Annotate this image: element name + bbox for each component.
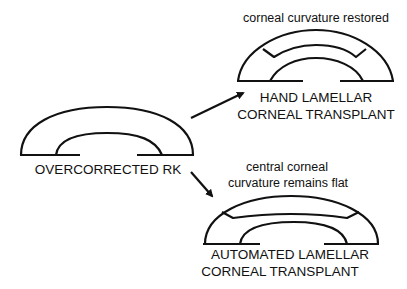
overcorrected-rk-label: OVERCORRECTED RK — [35, 163, 181, 177]
automated-lamellar-caption-line-2: curvature remains flat — [228, 177, 348, 190]
hand-lamellar-cornea-shape — [237, 30, 394, 81]
hand-lamellar-label-line-1: HAND LAMELLAR — [260, 91, 373, 105]
automated-lamellar-label-line-2: CORNEAL TRANSPLANT — [201, 265, 359, 279]
automated-lamellar-caption-line-1: central corneal — [246, 161, 328, 174]
diagram-canvas — [0, 0, 407, 289]
hand-lamellar-label-line-2: CORNEAL TRANSPLANT — [237, 108, 395, 122]
arrow-to-automated-lamellar — [191, 172, 212, 196]
hand-lamellar-caption: corneal curvature restored — [243, 12, 389, 25]
overcorrected-rk-cornea-shape — [20, 107, 194, 155]
automated-lamellar-label-line-1: AUTOMATED LAMELLAR — [211, 248, 369, 262]
arrow-to-hand-lamellar — [191, 93, 243, 118]
automated-lamellar-cornea-shape — [203, 196, 379, 244]
